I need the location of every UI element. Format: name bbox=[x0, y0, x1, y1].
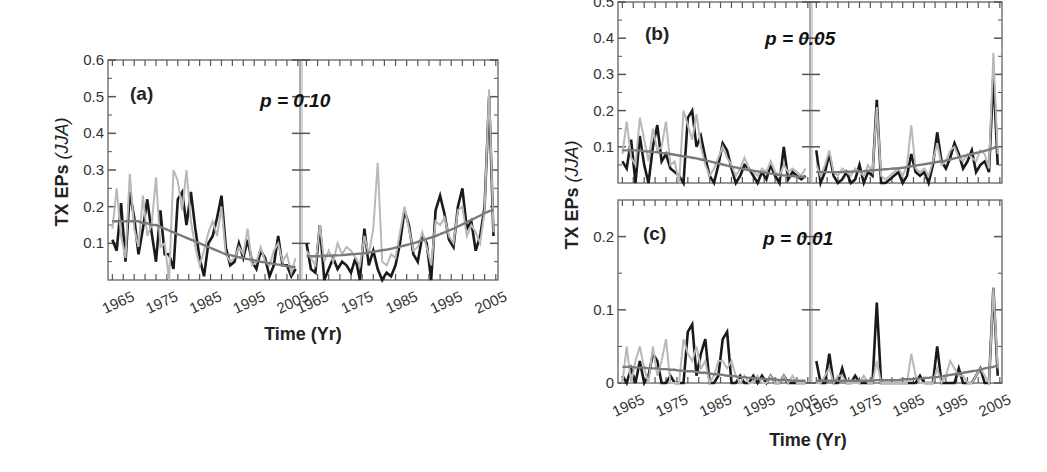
y-tick-label: 0.1 bbox=[83, 234, 104, 251]
x-tick-label: 1995 bbox=[230, 287, 267, 317]
series-light-line bbox=[816, 53, 997, 180]
y-tick-label: 0.6 bbox=[83, 51, 104, 68]
x-tick-label: 1975 bbox=[846, 390, 883, 420]
x-tick-label: 1975 bbox=[338, 287, 375, 317]
x-tick-label: 1985 bbox=[187, 287, 224, 317]
panel-a: 0.10.20.30.40.50.61965197519851995200519… bbox=[83, 51, 509, 317]
panel-c: 00.10.2196519751985199520051965197519851… bbox=[593, 200, 1013, 420]
y-tick-label: 0.3 bbox=[593, 65, 614, 82]
p-value-label: p = 0.01 bbox=[762, 228, 833, 249]
y-tick-label: 0.2 bbox=[83, 198, 104, 215]
series-light-line bbox=[622, 339, 805, 383]
x-tick-label: 1965 bbox=[609, 390, 646, 420]
y-axis-title: TX EPs (JJA) bbox=[52, 117, 72, 226]
y-axis-title: TX EPs (JJA) bbox=[562, 140, 582, 249]
x-tick-label: 1975 bbox=[653, 390, 690, 420]
x-tick-label: 2005 bbox=[472, 287, 509, 317]
x-axis-title: Time (Yr) bbox=[769, 430, 847, 450]
y-tick-label: 0.1 bbox=[593, 301, 614, 318]
y-tick-label: 0.3 bbox=[83, 161, 104, 178]
x-tick-label: 1985 bbox=[697, 390, 734, 420]
x-tick-label: 1995 bbox=[933, 390, 970, 420]
x-tick-label: 2005 bbox=[976, 390, 1013, 420]
x-tick-label: 1975 bbox=[143, 287, 180, 317]
panel-b: 0.10.20.30.40.5(b)p = 0.05 bbox=[593, 0, 1002, 183]
y-tick-label: 0.5 bbox=[83, 88, 104, 105]
y-tick-label: 0 bbox=[606, 374, 614, 391]
x-axis-title: Time (Yr) bbox=[264, 324, 342, 344]
p-value-label: p = 0.05 bbox=[764, 28, 836, 49]
y-tick-label: 0.4 bbox=[83, 124, 104, 141]
x-tick-label: 1995 bbox=[427, 287, 464, 317]
y-tick-label: 0.4 bbox=[593, 29, 614, 46]
x-tick-label: 1985 bbox=[383, 287, 420, 317]
p-value-label: p = 0.10 bbox=[259, 90, 331, 111]
panel-label: (a) bbox=[130, 83, 153, 104]
y-tick-label: 0.5 bbox=[593, 0, 614, 10]
x-tick-label: 1965 bbox=[99, 287, 136, 317]
panel-label: (b) bbox=[645, 23, 669, 44]
panel-label: (c) bbox=[643, 223, 666, 244]
series-dark-line bbox=[816, 288, 997, 383]
x-tick-label: 1985 bbox=[889, 390, 926, 420]
figure-canvas: 0.10.20.30.40.50.61965197519851995200519… bbox=[0, 0, 1047, 472]
x-tick-label: 1995 bbox=[740, 390, 777, 420]
y-tick-label: 0.2 bbox=[593, 228, 614, 245]
y-tick-label: 0.1 bbox=[593, 138, 614, 155]
y-tick-label: 0.2 bbox=[593, 102, 614, 119]
